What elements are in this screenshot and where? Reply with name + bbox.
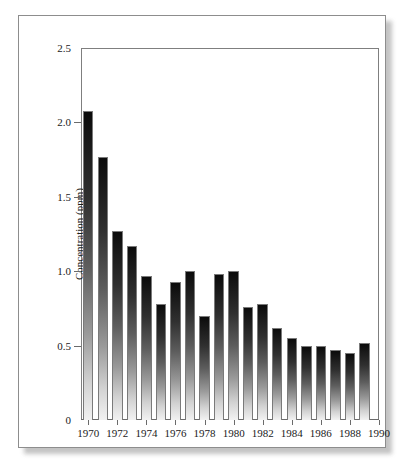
bar [272, 328, 282, 420]
bar [185, 271, 195, 420]
bar [127, 246, 137, 420]
x-tick-label: 1972 [106, 427, 128, 439]
x-tick-label: 1974 [135, 427, 157, 439]
bar [359, 343, 369, 420]
x-tick-mark [205, 420, 206, 425]
y-tick-mark [74, 197, 81, 198]
x-tick-label: 1988 [339, 427, 361, 439]
chart-figure: Concentration (ppm) 2.52.01.51.00.50 197… [0, 0, 414, 468]
bar [301, 346, 311, 420]
bar [83, 111, 93, 421]
x-tick-mark [234, 420, 235, 425]
chart-card: Concentration (ppm) 2.52.01.51.00.50 197… [18, 15, 386, 448]
y-tick-mark [74, 420, 81, 421]
y-tick-mark [74, 122, 81, 123]
x-tick-label: 1980 [223, 427, 245, 439]
bar [98, 157, 108, 420]
y-tick-label: 0 [66, 414, 72, 426]
x-tick-label: 1986 [310, 427, 332, 439]
bar [170, 282, 180, 420]
x-tick-label: 1990 [368, 427, 390, 439]
x-tick-mark [350, 420, 351, 425]
y-tick-label: 0.5 [57, 340, 71, 352]
y-tick-label: 2.5 [57, 42, 71, 54]
x-tick-mark [263, 420, 264, 425]
y-tick-mark [74, 48, 81, 49]
bar-series [81, 48, 379, 420]
x-tick-label: 1984 [281, 427, 303, 439]
bar [345, 353, 355, 420]
x-tick-label: 1970 [77, 427, 99, 439]
bar [287, 338, 297, 420]
x-tick-mark [379, 420, 380, 425]
y-tick-mark [74, 346, 81, 347]
bar [112, 231, 122, 420]
bar [228, 271, 238, 420]
plot-area: Concentration (ppm) 2.52.01.51.00.50 197… [81, 48, 379, 420]
bar [257, 304, 267, 420]
bar [316, 346, 326, 420]
y-tick-label: 1.5 [57, 191, 71, 203]
y-tick-label: 2.0 [57, 116, 71, 128]
bar [243, 307, 253, 420]
x-tick-mark [321, 420, 322, 425]
x-tick-label: 1982 [252, 427, 274, 439]
y-tick-mark [74, 271, 81, 272]
x-tick-mark [117, 420, 118, 425]
x-tick-mark [175, 420, 176, 425]
bar [330, 350, 340, 420]
x-tick-label: 1976 [164, 427, 186, 439]
x-tick-mark [146, 420, 147, 425]
x-tick-mark [292, 420, 293, 425]
x-tick-mark [88, 420, 89, 425]
bar [199, 316, 209, 420]
bar [141, 276, 151, 420]
x-tick-label: 1978 [194, 427, 216, 439]
bar [214, 274, 224, 420]
bar [156, 304, 166, 420]
y-tick-label: 1.0 [57, 265, 71, 277]
